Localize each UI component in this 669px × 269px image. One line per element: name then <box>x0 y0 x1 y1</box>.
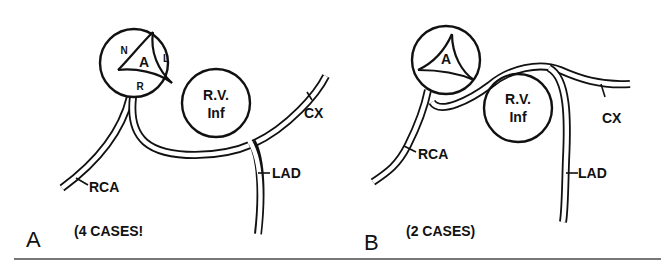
cx-label-a: CX <box>304 105 324 121</box>
rca-label-b: RCA <box>418 146 448 162</box>
coronary-anomaly-diagram: A N L R R.V. Inf RCA CX LAD (4 CASES! A … <box>0 0 669 269</box>
rv-label-line1-b: R.V. <box>505 91 531 107</box>
panel-a: A N L R R.V. Inf RCA CX LAD (4 CASES! A <box>26 29 326 252</box>
panel-letter-b: B <box>364 230 379 255</box>
panel-letter-a: A <box>26 227 41 252</box>
rv-infundibulum-b <box>484 74 552 142</box>
cusp-label-r: R <box>136 81 144 92</box>
rv-infundibulum-a <box>182 69 250 137</box>
rv-label-line1-a: R.V. <box>203 87 229 103</box>
case-count-caption-b: (2 CASES) <box>406 223 475 239</box>
rv-label-line2-a: Inf <box>207 105 224 121</box>
rv-label-line2-b: Inf <box>509 109 526 125</box>
cusp-label-l: L <box>163 53 169 64</box>
cx-label-b: CX <box>602 110 622 126</box>
rca-label-a: RCA <box>89 179 119 195</box>
bottom-rule <box>14 258 661 260</box>
lad-label-a: LAD <box>272 165 301 181</box>
rca-vessel-a <box>62 97 130 188</box>
panel-b: A R.V. Inf RCA CX LAD (2 CASES) B <box>364 26 630 255</box>
aortic-valve-label-b: A <box>441 51 451 67</box>
lad-label-b: LAD <box>578 165 607 181</box>
case-count-caption-a: (4 CASES! <box>74 223 143 239</box>
aortic-valve-label-a: A <box>139 54 149 70</box>
cusp-label-n: N <box>120 45 127 56</box>
rca-vessel-b <box>373 90 428 182</box>
